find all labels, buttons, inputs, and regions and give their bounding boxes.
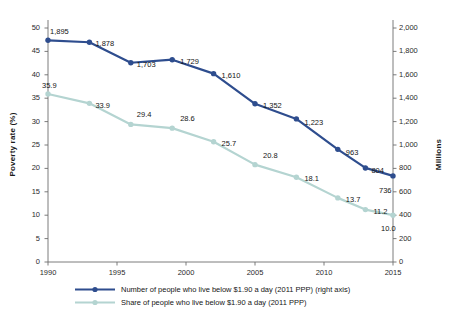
y-right-tick-1800: 1,800 xyxy=(399,46,429,55)
data-label-left-1999: 28.6 xyxy=(180,114,195,123)
data-label-left-1990: 35.9 xyxy=(42,81,57,90)
poverty-chart: Poverty rate (%) Millions 05101520253035… xyxy=(0,0,453,318)
legend-label-share: Share of people who live below $1.90 a d… xyxy=(121,298,306,307)
chart-legend: Number of people who live below $1.90 a … xyxy=(75,283,350,309)
data-label-right-1990: 1,895 xyxy=(50,27,69,36)
x-tick-2010: 2010 xyxy=(306,268,342,277)
y-left-tick-25: 25 xyxy=(14,140,40,149)
y-right-tick-1400: 1,400 xyxy=(399,93,429,102)
x-tick-1995: 1995 xyxy=(99,268,135,277)
legend-marker-share-icon xyxy=(75,297,115,308)
data-label-left-2013: 11.2 xyxy=(373,207,387,216)
y-right-tick-800: 800 xyxy=(399,163,429,172)
legend-item-number[interactable]: Number of people who live below $1.90 a … xyxy=(75,283,350,296)
data-label-left-2011: 13.7 xyxy=(346,195,361,204)
data-label-right-2008: 1,223 xyxy=(304,118,323,127)
y-left-tick-40: 40 xyxy=(14,70,40,79)
data-label-right-2011: 963 xyxy=(346,148,359,157)
data-label-left-2005: 20.8 xyxy=(263,151,278,160)
data-label-right-2013: 804 xyxy=(371,166,384,175)
y-left-tick-10: 10 xyxy=(14,210,40,219)
data-label-right-1996: 1,703 xyxy=(137,60,156,69)
legend-item-share[interactable]: Share of people who live below $1.90 a d… xyxy=(75,296,350,309)
legend-label-number: Number of people who live below $1.90 a … xyxy=(121,285,350,294)
y-right-tick-200: 200 xyxy=(399,234,429,243)
x-tick-2005: 2005 xyxy=(237,268,273,277)
data-label-left-1996: 29.4 xyxy=(137,110,152,119)
y-right-tick-2000: 2,000 xyxy=(399,23,429,32)
data-label-left-1993: 33.9 xyxy=(95,101,110,110)
y-right-tick-400: 400 xyxy=(399,210,429,219)
y-left-tick-45: 45 xyxy=(14,46,40,55)
y-right-tick-1000: 1,000 xyxy=(399,140,429,149)
data-label-right-1999: 1,729 xyxy=(180,57,199,66)
y-left-tick-20: 20 xyxy=(14,163,40,172)
y-left-tick-5: 5 xyxy=(14,234,40,243)
data-label-left-2002: 25.7 xyxy=(222,139,237,148)
x-tick-2015: 2015 xyxy=(375,268,411,277)
y-right-tick-0: 0 xyxy=(399,257,429,266)
x-tick-1990: 1990 xyxy=(30,268,66,277)
y-left-tick-30: 30 xyxy=(14,117,40,126)
y-right-tick-1200: 1,200 xyxy=(399,117,429,126)
y-right-tick-600: 600 xyxy=(399,187,429,196)
data-label-right-1993: 1,878 xyxy=(95,39,114,48)
y-left-tick-35: 35 xyxy=(14,93,40,102)
legend-marker-number-icon xyxy=(75,284,115,295)
y-left-tick-0: 0 xyxy=(14,257,40,266)
data-label-left-2008: 18.1 xyxy=(304,174,319,183)
data-label-right-2002: 1,610 xyxy=(222,71,241,80)
data-label-left-2015: 10.0 xyxy=(381,224,396,233)
y-right-tick-1600: 1,600 xyxy=(399,70,429,79)
y-left-tick-15: 15 xyxy=(14,187,40,196)
x-tick-2000: 2000 xyxy=(168,268,204,277)
data-label-right-2005: 1,352 xyxy=(263,101,282,110)
data-label-right-2015: 736 xyxy=(379,186,392,195)
y-left-tick-50: 50 xyxy=(14,23,40,32)
